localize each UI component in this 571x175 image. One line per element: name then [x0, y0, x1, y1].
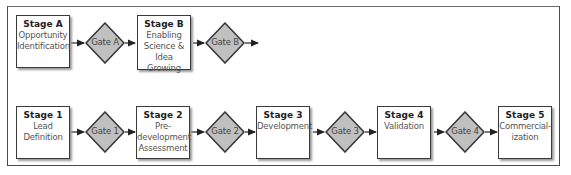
stage-desc: development — [137, 132, 189, 143]
stage-desc: Definition — [17, 132, 69, 143]
gate-label: Gate 4 — [445, 126, 485, 136]
stage-desc: Validation — [378, 121, 430, 132]
gate-label: Gate B — [205, 37, 245, 47]
stage-desc: Idea Growing — [138, 52, 190, 74]
stage-title: Stage 2 — [137, 110, 189, 121]
stage-desc: Science & — [138, 41, 190, 52]
gate-b-diamond: Gate B — [205, 22, 245, 64]
stage-3-box: Stage 3 Development — [256, 106, 310, 159]
stage-title: Stage B — [138, 19, 190, 30]
stage-desc: Enabling — [138, 30, 190, 41]
gate-label: Gate A — [85, 37, 125, 47]
stage-a-box: Stage A Opportunity Identification — [16, 15, 70, 68]
stage-title: Stage 3 — [257, 110, 309, 121]
gate-label: Gate 3 — [325, 126, 365, 136]
stage-desc: Assessment — [137, 143, 189, 154]
gate-1-diamond: Gate 1 — [85, 111, 125, 153]
gate-3-diamond: Gate 3 — [325, 111, 365, 153]
gate-4-diamond: Gate 4 — [445, 111, 485, 153]
stage-desc: ization — [499, 132, 551, 143]
stage-5-box: Stage 5 Commercial- ization — [498, 106, 552, 159]
gate-label: Gate 1 — [85, 126, 125, 136]
stage-desc: Pre- — [137, 121, 189, 132]
stage-title: Stage A — [17, 19, 69, 30]
stage-title: Stage 1 — [17, 110, 69, 121]
stage-2-box: Stage 2 Pre- development Assessment — [136, 106, 190, 159]
stage-title: Stage 4 — [378, 110, 430, 121]
stage-desc: Opportunity — [17, 30, 69, 41]
stage-1-box: Stage 1 Lead Definition — [16, 106, 70, 159]
stage-desc: Lead — [17, 121, 69, 132]
stage-b-box: Stage B Enabling Science & Idea Growing — [137, 15, 191, 70]
stage-desc: Identification — [17, 41, 69, 52]
stage-desc: Commercial- — [499, 121, 551, 132]
stage-title: Stage 5 — [499, 110, 551, 121]
gate-label: Gate 2 — [205, 126, 245, 136]
gate-a-diamond: Gate A — [85, 22, 125, 64]
stage-4-box: Stage 4 Validation — [377, 106, 431, 159]
gate-2-diamond: Gate 2 — [205, 111, 245, 153]
stage-desc: Development — [257, 121, 309, 132]
